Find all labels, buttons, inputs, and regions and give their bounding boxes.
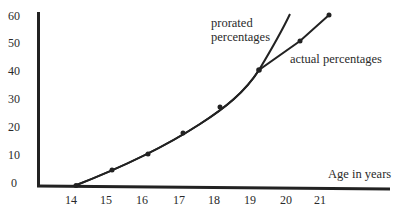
x-tick-label: 16 <box>136 193 148 207</box>
y-tick-label: 40 <box>8 64 20 78</box>
y-tick-label: 60 <box>8 9 20 23</box>
x-tick-label: 21 <box>314 193 326 207</box>
x-axis-label: Age in years <box>328 167 391 181</box>
prorated-label: percentages <box>211 30 270 44</box>
y-tick-label: 0 <box>11 176 17 190</box>
data-point <box>74 183 79 188</box>
data-point <box>218 105 223 110</box>
data-point <box>298 39 303 44</box>
data-point <box>146 152 151 157</box>
x-tick-label: 20 <box>280 193 292 207</box>
x-tick-label: 14 <box>65 193 77 207</box>
data-point <box>256 67 262 73</box>
x-tick-label: 15 <box>100 193 112 207</box>
actual-percentages-curve <box>74 15 329 186</box>
data-point <box>110 168 115 173</box>
y-tick-label: 20 <box>8 120 20 134</box>
prorated-label: prorated <box>211 16 253 30</box>
y-tick-label: 50 <box>8 36 20 50</box>
x-tick-label: 17 <box>173 193 185 207</box>
chart: 60 50 40 30 20 10 0 14 15 16 17 18 19 20… <box>0 0 399 215</box>
y-tick-label: 30 <box>8 92 20 106</box>
y-tick-label: 10 <box>8 148 20 162</box>
data-point <box>181 131 186 136</box>
x-tick-label: 18 <box>208 193 220 207</box>
actual-label: actual percentages <box>290 52 382 66</box>
data-point <box>327 13 332 18</box>
x-tick-label: 19 <box>244 193 256 207</box>
x-axis <box>37 186 390 189</box>
